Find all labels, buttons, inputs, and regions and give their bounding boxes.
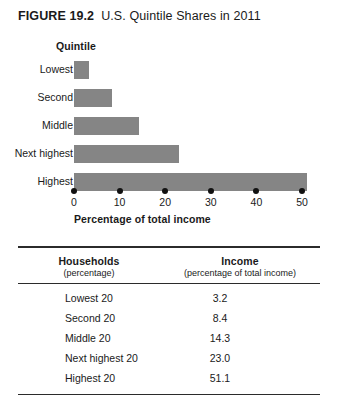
chart-category-axis-title: Quintile (56, 40, 96, 52)
households-header-main: Households (18, 255, 160, 267)
figure-title-text: U.S. Quintile Shares in 2011 (101, 9, 261, 23)
bar-row: Next highest (0, 144, 338, 166)
table-cell-household: Second 20 (18, 312, 160, 324)
table-row: Middle 2014.3 (18, 328, 320, 348)
table-body: Lowest 203.2Second 208.4Middle 2014.3Nex… (18, 284, 320, 388)
x-tick-label: 0 (54, 196, 94, 208)
x-tick-10: 10 (100, 188, 140, 208)
income-header-main: Income (160, 255, 320, 267)
tick-dot-icon (117, 188, 123, 194)
x-tick-50: 50 (282, 188, 322, 208)
table-column-header-income: Income (percentage of total income) (160, 255, 320, 278)
table-cell-income: 8.4 (160, 312, 320, 324)
x-tick-label: 20 (145, 196, 185, 208)
table-row: Second 208.4 (18, 308, 320, 328)
x-tick-40: 40 (236, 188, 276, 208)
table-column-header-households: Households (percentage) (18, 255, 160, 278)
table-cell-income: 3.2 (160, 292, 320, 304)
figure-number: FIGURE 19.2 (18, 9, 94, 23)
x-tick-label: 50 (282, 196, 322, 208)
table-cell-income: 51.1 (160, 372, 320, 384)
x-tick-label: 10 (100, 196, 140, 208)
table-header-row: Households (percentage) Income (percenta… (18, 248, 320, 283)
tick-dot-icon (253, 188, 259, 194)
quintile-bar-chart: Quintile LowestSecondMiddleNext highestH… (0, 38, 338, 233)
table-bottom-rule (18, 394, 320, 396)
table-cell-household: Middle 20 (18, 332, 160, 344)
bar-label-middle: Middle (0, 119, 73, 131)
tick-dot-icon (162, 188, 168, 194)
bar-row: Lowest (0, 60, 338, 82)
table-cell-household: Lowest 20 (18, 292, 160, 304)
households-header-sub: (percentage) (18, 268, 160, 278)
bar-row: Middle (0, 116, 338, 138)
x-axis-title: Percentage of total income (74, 213, 211, 225)
bar-next-highest (74, 145, 179, 163)
x-tick-0: 0 (54, 188, 94, 208)
x-tick-label: 30 (191, 196, 231, 208)
tick-dot-icon (299, 188, 305, 194)
x-tick-20: 20 (145, 188, 185, 208)
bar-label-second: Second (0, 91, 73, 103)
income-header-sub: (percentage of total income) (160, 268, 320, 278)
table-cell-income: 14.3 (160, 332, 320, 344)
bar-label-next-highest: Next highest (0, 147, 73, 159)
bar-middle (74, 117, 139, 135)
table-cell-income: 23.0 (160, 352, 320, 364)
table-cell-household: Next highest 20 (18, 352, 160, 364)
table-row: Lowest 203.2 (18, 288, 320, 308)
table-cell-household: Highest 20 (18, 372, 160, 384)
bar-second (74, 89, 112, 107)
bar-row: Second (0, 88, 338, 110)
table-row: Highest 2051.1 (18, 368, 320, 388)
x-tick-label: 40 (236, 196, 276, 208)
bar-lowest (74, 61, 89, 79)
quintile-data-table: Households (percentage) Income (percenta… (18, 246, 320, 395)
tick-dot-icon (71, 188, 77, 194)
bar-label-lowest: Lowest (0, 63, 73, 75)
x-axis: 01020304050 Percentage of total income (0, 188, 338, 230)
tick-dot-icon (208, 188, 214, 194)
figure-title: FIGURE 19.2U.S. Quintile Shares in 2011 (18, 9, 261, 23)
table-row: Next highest 2023.0 (18, 348, 320, 368)
x-tick-30: 30 (191, 188, 231, 208)
bar-label-highest: Highest (0, 175, 73, 187)
